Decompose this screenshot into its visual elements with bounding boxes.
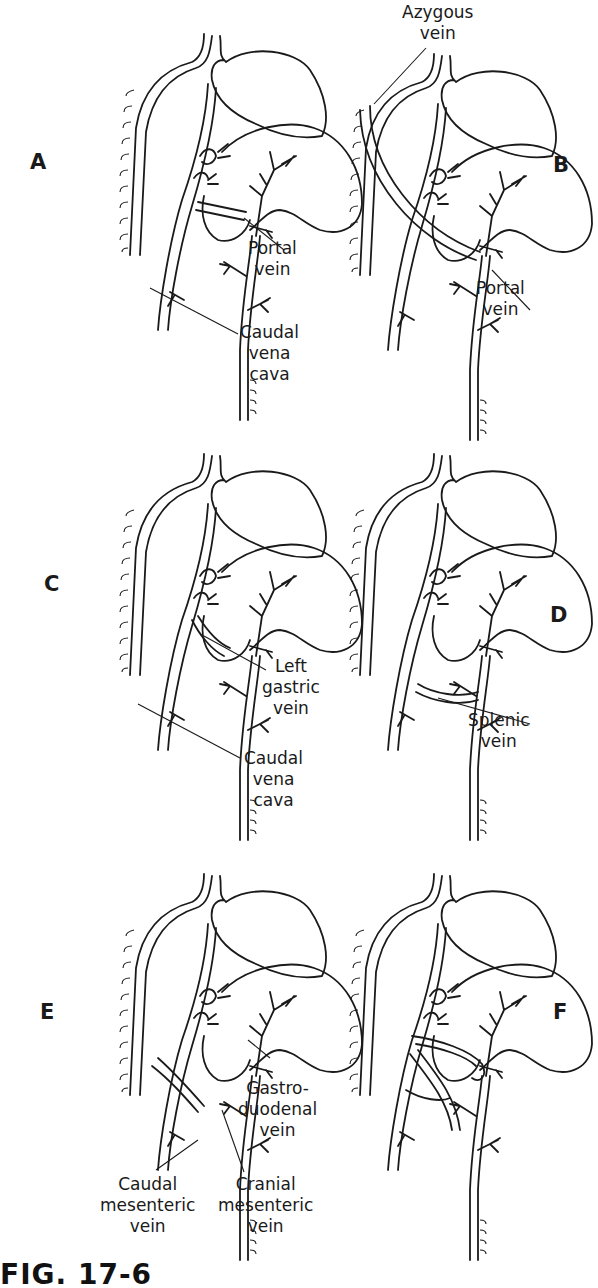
- panel-letter-a: A: [30, 150, 46, 174]
- azygous-vein-label: Azygous vein: [402, 2, 473, 44]
- portal-vein-label: Portal vein: [248, 238, 297, 280]
- panel-a: [100, 0, 360, 420]
- portal-anatomy-drawing-d: [330, 420, 590, 840]
- gastroduodenal-vein-label: Gastro- duodenal vein: [238, 1078, 317, 1141]
- caudal-mesenteric-vein-label: Caudal mesenteric vein: [100, 1174, 195, 1237]
- left-gastric-vein-label: Left gastric vein: [262, 656, 320, 719]
- panel-f: [330, 840, 590, 1260]
- figure-caption: FIG. 17-6: [0, 1258, 152, 1288]
- cranial-mesenteric-vein-label: Cranial mesenteric vein: [218, 1174, 313, 1237]
- portal-anatomy-drawing-f: [330, 840, 590, 1260]
- panel-letter-e: E: [40, 1000, 54, 1024]
- panel-letter-c: C: [44, 572, 59, 596]
- portal-anatomy-drawing-c: [100, 420, 360, 840]
- portal-vein-label: Portal vein: [476, 278, 525, 320]
- panel-d: [330, 420, 590, 840]
- panel-letter-d: D: [550, 603, 567, 627]
- panel-b: [330, 20, 590, 440]
- caudal-vena-cava-label: Caudal vena cava: [244, 748, 303, 811]
- caudal-vena-cava-label: Caudal vena cava: [240, 322, 299, 385]
- splenic-vein-label: Splenic vein: [468, 710, 530, 752]
- panel-letter-f: F: [553, 1000, 567, 1024]
- portal-anatomy-drawing-b: [330, 20, 590, 440]
- panel-letter-b: B: [553, 153, 569, 177]
- portal-anatomy-drawing-a: [100, 0, 360, 420]
- panel-c: [100, 420, 360, 840]
